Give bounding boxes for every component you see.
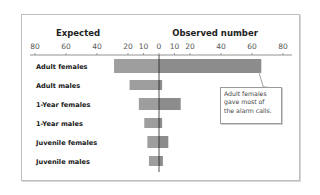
- category-label: Juvenile females: [35, 139, 97, 147]
- x-tick-label: 10: [170, 42, 180, 51]
- right-header: Observed number: [172, 28, 258, 38]
- observed-bar: [159, 98, 181, 110]
- x-tick-label: 80: [278, 42, 288, 51]
- category-label: 1-Year females: [36, 101, 90, 109]
- category-label: Adult males: [36, 82, 80, 90]
- x-tick-label: 20: [123, 42, 133, 51]
- x-tick-label: 10: [139, 42, 149, 51]
- observed-bar: [159, 59, 261, 73]
- annotation-callout: Adult females gave most of the alarm cal…: [220, 87, 282, 124]
- expected-bar: [149, 156, 159, 166]
- x-tick-label: 0: [157, 42, 162, 51]
- observed-bar: [159, 80, 162, 90]
- callout-line-2: gave most of: [224, 98, 278, 106]
- x-tick-label: 40: [92, 42, 102, 51]
- observed-bar: [159, 156, 163, 166]
- x-tick-label: 60: [247, 42, 257, 51]
- observed-bar: [159, 136, 168, 148]
- expected-bar: [144, 118, 159, 128]
- expected-bar: [139, 98, 159, 110]
- x-tick-label: 40: [216, 42, 226, 51]
- observed-bar: [159, 118, 162, 128]
- expected-bar: [147, 136, 159, 148]
- callout-line-1: Adult females: [224, 90, 278, 98]
- expected-bar: [130, 80, 159, 90]
- category-label: 1-Year males: [36, 120, 83, 128]
- x-tick-label: 60: [61, 42, 71, 51]
- category-label: Adult females: [36, 63, 88, 71]
- x-tick-label: 80: [30, 42, 40, 51]
- expected-bar: [114, 59, 159, 73]
- left-header: Expected: [56, 28, 100, 38]
- x-tick-label: 20: [185, 42, 195, 51]
- category-label: Juvenile males: [35, 158, 90, 166]
- callout-line-3: the alarm calls.: [224, 107, 278, 115]
